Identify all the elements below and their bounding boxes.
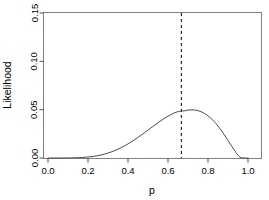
y-axis-tick-labels: 0.000.050.100.15 bbox=[29, 4, 40, 168]
x-tick-label: 1.0 bbox=[241, 165, 254, 176]
x-tick-label: 0.2 bbox=[81, 165, 94, 176]
y-tick-label: 0.05 bbox=[29, 100, 40, 119]
plot-canvas: 0.000.050.100.15 0.00.20.40.60.81.0 p Li… bbox=[0, 0, 269, 200]
y-axis-title: Likelihood bbox=[1, 61, 13, 108]
y-tick-label: 0.00 bbox=[29, 149, 40, 168]
x-axis-title: p bbox=[149, 184, 155, 196]
x-tick-label: 0.8 bbox=[201, 165, 214, 176]
likelihood-plot-figure: 0.000.050.100.15 0.00.20.40.60.81.0 p Li… bbox=[0, 0, 269, 200]
y-tick-label: 0.15 bbox=[29, 4, 40, 23]
y-axis-ticks bbox=[40, 13, 44, 158]
x-tick-label: 0.0 bbox=[41, 165, 54, 176]
plot-frame bbox=[44, 13, 262, 159]
x-axis-tick-labels: 0.00.20.40.60.81.0 bbox=[41, 165, 254, 176]
x-tick-label: 0.6 bbox=[161, 165, 174, 176]
likelihood-curve bbox=[48, 110, 248, 158]
x-tick-label: 0.4 bbox=[121, 165, 134, 176]
y-tick-label: 0.10 bbox=[29, 52, 40, 70]
x-axis-ticks bbox=[48, 159, 248, 163]
